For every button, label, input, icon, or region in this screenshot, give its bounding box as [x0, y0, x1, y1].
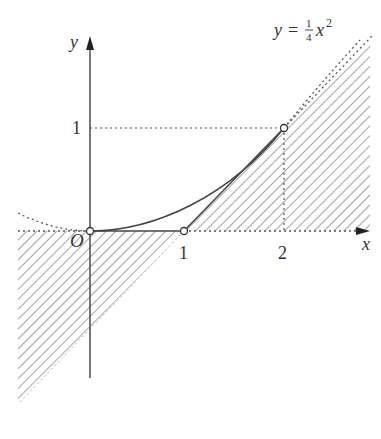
svg-text:2: 2	[326, 16, 332, 30]
equation-label: y = 1 4 x 2	[272, 16, 332, 43]
x-tick-2: 2	[278, 243, 287, 263]
point-origin	[87, 228, 94, 235]
svg-text:=: =	[288, 20, 298, 40]
x-tick-1: 1	[179, 243, 188, 263]
y-axis-label: y	[68, 32, 78, 52]
svg-text:x: x	[315, 20, 324, 40]
svg-text:1: 1	[306, 17, 312, 29]
parabola-region-diagram: y x O 1 2 1 y = 1 4 x 2	[0, 0, 381, 439]
origin-label: O	[70, 230, 84, 251]
point-x-one	[181, 228, 188, 235]
y-tick-1: 1	[72, 118, 81, 138]
parabola-dotted-left	[18, 213, 90, 231]
svg-text:y: y	[272, 20, 282, 40]
x-axis-label: x	[361, 234, 370, 254]
point-two-one	[281, 125, 288, 132]
y-axis-arrow-icon	[86, 36, 94, 50]
svg-text:4: 4	[306, 31, 312, 43]
